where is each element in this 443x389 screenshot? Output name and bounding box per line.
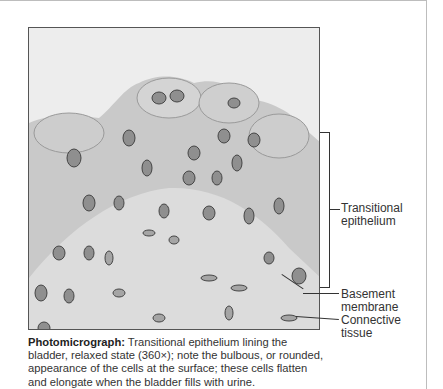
label-line: tissue bbox=[341, 327, 401, 340]
epithelium-bracket bbox=[320, 132, 330, 288]
epithelium-bracket-tick bbox=[330, 209, 340, 210]
label-transitional-epithelium: Transitional epithelium bbox=[341, 202, 403, 228]
micrograph-illustration bbox=[29, 28, 320, 330]
label-connective-tissue: Connective tissue bbox=[341, 314, 401, 340]
photomicrograph-image bbox=[28, 27, 320, 330]
figure-caption: Photomicrograph: Transitional epithelium… bbox=[28, 336, 328, 389]
label-line: epithelium bbox=[341, 215, 403, 228]
label-basement-membrane: Basement membrane bbox=[341, 288, 398, 314]
caption-lead: Photomicrograph: bbox=[28, 336, 125, 348]
basement-membrane-leader-h bbox=[303, 293, 339, 294]
